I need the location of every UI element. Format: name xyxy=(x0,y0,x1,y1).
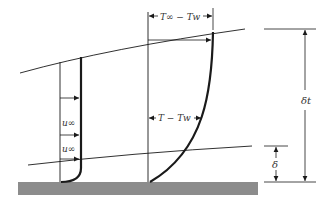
velocity-thickness-label: δ xyxy=(272,159,278,170)
temp-difference-free-label: T∞ − Tw xyxy=(160,12,200,22)
temperature-profile-curve xyxy=(150,32,213,182)
flat-plate xyxy=(18,182,258,195)
temp-difference-local-label: T − Tw xyxy=(158,113,191,123)
u-inf-label-upper: u∞ xyxy=(62,118,75,128)
boundary-layer-diagram: u∞ u∞ T∞ − Tw T − Tw δt δ xyxy=(0,0,330,199)
u-inf-label-lower: u∞ xyxy=(62,144,75,154)
thermal-thickness-label: δt xyxy=(301,95,312,106)
